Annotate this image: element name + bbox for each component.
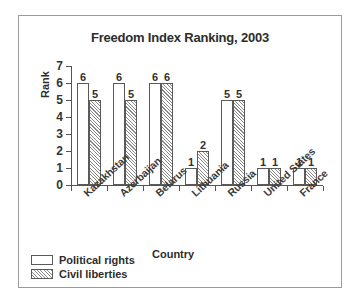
y-tick [66,168,71,169]
legend-item-civil-liberties: Civil liberties [31,267,135,281]
legend-swatch-political-rights [31,255,53,265]
legend-item-political-rights: Political rights [31,253,135,267]
bar-value-label: 1 [188,157,194,168]
bar-value-label: 5 [236,89,242,100]
y-tick-label: 3 [56,128,63,140]
legend-label: Political rights [59,255,135,266]
y-tick [66,83,71,84]
bar-belarus-civil-liberties: 6 [161,83,173,185]
y-tick [66,66,71,67]
x-tick [71,186,72,191]
chart-title: Freedom Index Ranking, 2003 [18,30,342,45]
y-tick [66,151,71,152]
y-axis-title: Rank [39,71,51,98]
bar-value-label: 6 [164,72,170,83]
y-tick-label: 7 [56,60,63,72]
bar-value-label: 6 [80,72,86,83]
bar-value-label: 6 [116,72,122,83]
bar-value-label: 5 [128,89,134,100]
x-tick [215,186,216,191]
bar-value-label: 1 [260,157,266,168]
x-tick [107,186,108,191]
y-tick-label: 5 [56,94,63,106]
bar-value-label: 6 [152,72,158,83]
x-tick [251,186,252,191]
y-tick-label: 4 [56,111,63,123]
x-tick [179,186,180,191]
y-tick [66,134,71,135]
bar-value-label: 5 [92,89,98,100]
x-tick [287,186,288,191]
y-tick-label: 6 [56,77,63,89]
bar-value-label: 1 [272,157,278,168]
bar-kazakhstan-political-rights: 6 [77,83,89,185]
bar-value-label: 5 [224,89,230,100]
legend-label: Civil liberties [59,269,127,280]
x-tick [323,186,324,191]
y-tick [66,100,71,101]
chart-figure: Freedom Index Ranking, 2003 Rank Country… [0,0,364,303]
legend-swatch-civil-liberties [31,269,53,279]
x-axis-title: Country [152,248,194,260]
chart-legend: Political rightsCivil liberties [31,253,135,281]
y-tick [66,117,71,118]
y-tick-label: 2 [56,145,63,157]
bar-value-label: 2 [200,140,206,151]
y-axis-line [71,66,72,185]
y-tick-label: 1 [56,162,63,174]
x-tick [143,186,144,191]
y-tick-label: 0 [56,179,63,191]
